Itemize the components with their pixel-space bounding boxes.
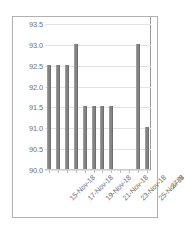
gridline xyxy=(45,24,151,25)
bar xyxy=(136,44,140,169)
bar xyxy=(83,106,87,169)
y-axis-tick-label: 93.5 xyxy=(16,20,43,29)
gridline xyxy=(45,170,151,171)
plot-area xyxy=(45,24,151,170)
bar xyxy=(100,106,104,169)
y-axis-tick-label: 92.0 xyxy=(16,82,43,91)
y-axis-tick-label: 93.0 xyxy=(16,40,43,49)
y-axis-tick-label: 90.5 xyxy=(16,145,43,154)
bar xyxy=(92,106,96,169)
y-axis-tick-label: 90.0 xyxy=(16,166,43,175)
bar xyxy=(109,106,113,169)
plot-right-border xyxy=(150,17,151,171)
bar xyxy=(74,44,78,169)
chart-card: 93.593.092.592.091.591.090.590.0 15-Nov-… xyxy=(12,16,158,218)
y-axis-tick-label: 91.0 xyxy=(16,124,43,133)
bar xyxy=(65,65,69,169)
bar xyxy=(145,127,149,169)
bar xyxy=(47,65,51,169)
chart-plot-wrapper: 93.593.092.592.091.591.090.590.0 15-Nov-… xyxy=(13,17,157,217)
bar xyxy=(56,65,60,169)
y-axis-tick-label: 92.5 xyxy=(16,61,43,70)
y-axis: 93.593.092.592.091.591.090.590.0 xyxy=(16,24,43,170)
x-axis: 15-Nov-1817-Nov-1819-Nov-1821-Nov-1823-N… xyxy=(45,173,155,217)
y-axis-tick-label: 91.5 xyxy=(16,103,43,112)
